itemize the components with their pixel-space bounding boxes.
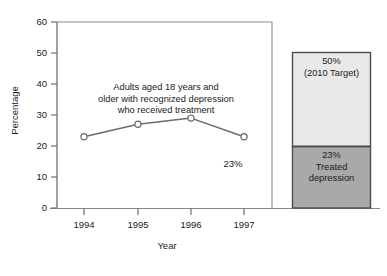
data-markers <box>81 115 247 140</box>
y-tick-label-30: 30 <box>21 109 47 120</box>
figure-container: 60 50 40 30 20 10 0 1994 1995 1996 1997 … <box>0 0 387 276</box>
x-tick-label-1996: 1996 <box>168 219 214 230</box>
y-tick-label-60: 60 <box>21 16 47 27</box>
x-tick-label-1997: 1997 <box>221 219 267 230</box>
y-tick-label-0: 0 <box>21 202 47 213</box>
chart-canvas <box>0 0 387 276</box>
y-tick-label-20: 20 <box>21 140 47 151</box>
bar-treated-label: 23% Treated depression <box>292 150 371 185</box>
x-tick-label-1995: 1995 <box>115 219 161 230</box>
x-axis-title: Year <box>139 240 195 251</box>
data-line <box>84 118 244 137</box>
bar-target-label: 50% (2010 Target) <box>292 56 371 79</box>
y-tick-label-10: 10 <box>21 171 47 182</box>
end-point-label: 23% <box>213 158 253 169</box>
y-axis-title: Percentage <box>9 76 20 146</box>
y-tick-label-40: 40 <box>21 78 47 89</box>
series-annotation: Adults aged 18 years and older with reco… <box>78 82 254 117</box>
y-axis-ticks <box>51 22 57 208</box>
x-tick-label-1994: 1994 <box>61 219 107 230</box>
y-tick-label-50: 50 <box>21 47 47 58</box>
